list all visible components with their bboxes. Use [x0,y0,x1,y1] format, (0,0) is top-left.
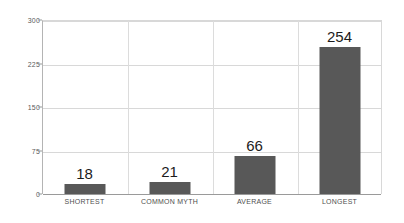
x-axis-label-common-myth: COMMON MYTH [141,198,198,205]
x-axis-label-shortest: SHORTEST [65,198,105,205]
bar-longest[interactable] [319,47,360,194]
bar-value-shortest: 18 [76,166,93,181]
bar-value-average: 66 [246,138,263,153]
y-axis-tick-0: 0 [8,190,40,197]
bar-slot-shortest: 18 [42,20,127,194]
y-axis-tick-225: 225 [8,60,40,67]
bar-slot-longest: 254 [297,20,382,194]
y-axis-tick-300: 300 [8,17,40,24]
bar-chart: 300 225 150 75 0 18 21 66 254 SHORTEST C… [0,0,404,223]
bar-value-longest: 254 [327,29,352,44]
bar-common-myth[interactable] [149,182,190,194]
y-axis-tick-150: 150 [8,104,40,111]
y-axis-tick-75: 75 [8,147,40,154]
bar-average[interactable] [234,156,275,194]
bar-value-common-myth: 21 [161,164,178,179]
bar-slot-common-myth: 21 [127,20,212,194]
bar-shortest[interactable] [64,184,105,194]
bars-layer: 18 21 66 254 [42,20,382,194]
bar-slot-average: 66 [212,20,297,194]
x-axis-label-longest: LONGEST [322,198,357,205]
x-axis-label-average: AVERAGE [237,198,272,205]
x-axis-labels: SHORTEST COMMON MYTH AVERAGE LONGEST [42,198,382,214]
gridline-baseline-0 [43,194,381,195]
